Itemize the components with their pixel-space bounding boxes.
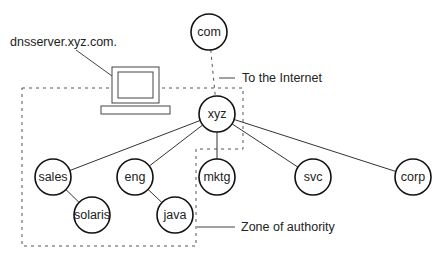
node-label: corp — [401, 170, 425, 184]
internet-label: To the Internet — [242, 71, 322, 85]
node-java: java — [157, 197, 193, 233]
edge-eng-java — [148, 189, 162, 202]
node-mktg: mktg — [199, 159, 235, 195]
node-sales: sales — [35, 159, 71, 195]
node-label: mktg — [203, 170, 230, 184]
node-eng: eng — [117, 159, 153, 195]
node-label: com — [197, 25, 221, 39]
node-label: sales — [38, 170, 67, 184]
zone-label: Zone of authority — [241, 220, 336, 234]
node-label: solaris — [74, 208, 110, 222]
edge-sales-solaris — [66, 190, 79, 203]
node-label: svc — [304, 170, 323, 184]
node-label: java — [163, 208, 187, 222]
monitor-screen — [118, 72, 153, 98]
edge-com-xyz — [211, 50, 216, 96]
node-com: com — [191, 14, 227, 50]
node-solaris: solaris — [74, 197, 110, 233]
node-corp: corp — [395, 159, 431, 195]
server-label: dnsserver.xyz.com. — [10, 35, 117, 49]
edge-xyz-svc — [232, 124, 298, 167]
edge-xyz-eng — [149, 125, 202, 166]
node-svc: svc — [295, 159, 331, 195]
node-xyz: xyz — [199, 96, 235, 132]
computer-icon — [101, 67, 170, 114]
dns-zone-diagram: comxyzsalesengmktgsvccorpsolarisjava dns… — [0, 0, 445, 263]
node-label: eng — [125, 170, 146, 184]
keyboard-base — [101, 106, 170, 114]
server-leader-line — [76, 50, 112, 76]
node-label: xyz — [208, 107, 227, 121]
